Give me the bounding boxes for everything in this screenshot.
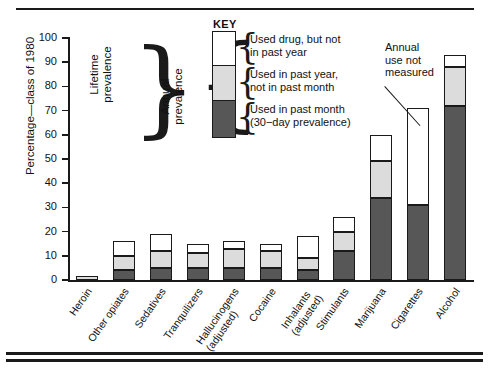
key-swatch-dark [213,101,235,137]
y-tick-label: 80 [13,80,57,91]
bar-segment-gray [370,161,392,197]
bottom-rule-2 [6,359,483,362]
y-tick-label-wrap: 50 [0,153,69,164]
bar-segment-gray [150,251,172,268]
key-label-gray-line1: Used in past year, [250,68,338,80]
key-swatch-white [213,32,235,66]
key-label-white-line1: Used drug, but not [250,33,341,45]
y-tick-label: 20 [13,226,57,237]
y-tick-label-wrap: 0 [0,274,69,285]
bar-segment-dark [150,268,172,280]
x-axis-label: Marijuana [353,286,389,330]
y-tick-label-wrap: 10 [0,250,69,261]
y-tick-label-wrap: 100 [0,32,69,43]
y-tick-label-wrap: 70 [0,105,69,116]
annual-not-measured-annotation: Annual use not measured [385,41,434,79]
bar-segment-dark [113,270,135,280]
bar-segment-white [333,217,355,232]
bar-segment-gray [113,256,135,271]
lifetime-prevalence-label: Lifetime prevalence [88,20,113,130]
x-axis-line [68,280,474,282]
bar-segment-dark [187,268,209,280]
y-tick-label-wrap: 90 [0,56,69,67]
bar-segment-dark [370,198,392,280]
x-axis-label: Cocaine [247,286,279,324]
key-swatch-gray [213,66,235,101]
key-label-dark-line2: (30−day prevalence) [250,116,351,128]
x-axis-label: Stimulants [314,286,352,333]
bar-segment-white [297,236,319,258]
bar-segment-white [187,244,209,254]
bar-segment-white [113,241,135,256]
bar-segment-dark [297,270,319,280]
bar [444,38,466,280]
bar-segment-dark [407,205,429,280]
key-label-gray-line2: not in past month [250,81,334,93]
y-tick-label: 10 [13,250,57,261]
y-tick-label: 100 [13,32,57,43]
bottom-rule-1 [6,352,483,355]
bar-segment-dark [260,268,282,280]
y-tick-label: 70 [13,105,57,116]
y-tick-label: 90 [13,56,57,67]
y-tick-label-wrap: 40 [0,177,69,188]
bar-segment-white [260,244,282,251]
x-axis-label: Sedatives [132,286,168,330]
x-axis-label: Cigarettes [388,286,425,332]
bar-segment-gray [223,249,245,268]
y-tick-label-wrap: 30 [0,201,69,212]
x-axis-label: Heroin [68,286,95,318]
bar-segment-dark [333,251,355,280]
y-tick-label-wrap: 20 [0,226,69,237]
bar-segment-white [150,234,172,251]
y-tick-label: 30 [13,201,57,212]
key-label-white: Used drug, but not in past year [250,33,341,58]
y-tick-label: 40 [13,177,57,188]
y-tick-label: 0 [13,274,57,285]
y-tick-label-wrap: 80 [0,80,69,91]
bar-segment-white [370,135,392,162]
y-tick-label: 60 [13,129,57,140]
key-label-gray: Used in past year, not in past month [250,68,338,93]
bar-segment-dark [223,268,245,280]
key-label-dark-line1: Used in past month [250,103,345,115]
key-swatch-box [212,31,236,138]
annual-prevalence-label: Annual prevalence [159,42,184,152]
x-axis-label: Alcohol [433,286,462,321]
y-tick-label: 50 [13,153,57,164]
key-title: KEY [213,18,237,30]
key-label-dark: Used in past month (30−day prevalence) [250,103,351,128]
bar-segment-gray [76,276,98,280]
bar-segment-gray [260,251,282,268]
bar-segment-gray [333,232,355,251]
bar-segment-white [223,241,245,248]
y-tick-label-wrap: 60 [0,129,69,140]
bar-segment-gray [444,67,466,106]
top-rule [16,8,474,10]
bar-segment-dark [444,106,466,280]
key-label-white-line2: in past year [250,46,307,58]
bar-segment-white [444,55,466,67]
x-axis-label: Inhalants (adjusted) [279,286,325,337]
figure-canvas: Percentage—class of 1980 010203040506070… [0,0,489,378]
bar-segment-gray [187,253,209,268]
bar-segment-gray [297,258,319,270]
